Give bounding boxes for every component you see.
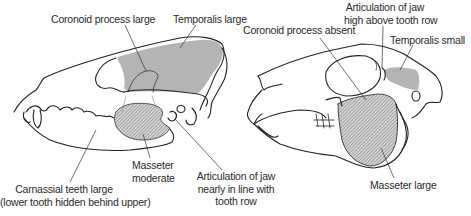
label-coronoid-process-large: Coronoid process large [51, 13, 155, 26]
herbivore-auditory-meatus [412, 91, 420, 101]
carnassial-line2: (lower tooth hidden behind upper) [0, 196, 128, 209]
label-masseter-large: Masseter large [370, 179, 437, 192]
masseter-moderate-line1: Masseter [132, 159, 168, 172]
temporalis-muscle-small [384, 67, 419, 90]
leader-temporalis-small [400, 45, 413, 70]
articulation-inline-line3: tooth row [186, 195, 286, 208]
carnivore-paroccipital [186, 108, 196, 125]
herbivore-upper-jaw [254, 110, 326, 124]
label-coronoid-process-absent: Coronoid process absent [243, 24, 355, 37]
leader-articulation-high [382, 26, 383, 68]
herbivore-skull [247, 44, 442, 168]
leader-carnassial [70, 130, 96, 182]
carnivore-skull [14, 37, 227, 151]
label-temporalis-small: Temporalis small [390, 34, 465, 47]
label-articulation-high: Articulation of jaw high above tooth row [344, 1, 426, 26]
herbivore-orbit [326, 56, 381, 96]
label-temporalis-large: Temporalis large [173, 13, 247, 26]
temporalis-muscle-large [118, 40, 223, 93]
herbivore-snout [258, 76, 282, 90]
label-masseter-moderate: Masseter moderate [132, 159, 168, 184]
articulation-inline-line2: nearly in line with [186, 183, 286, 196]
label-articulation-inline: Articulation of jaw nearly in line with … [186, 170, 286, 208]
articulation-inline-line1: Articulation of jaw [186, 170, 286, 183]
carnivore-auditory-bulla [177, 106, 185, 113]
masseter-muscle-large [338, 94, 398, 166]
articulation-high-line1: Articulation of jaw [344, 1, 426, 14]
carnivore-upper-teeth [26, 106, 114, 118]
leader-articulation-inline [175, 119, 222, 170]
carnassial-line1: Carnassial teeth large [0, 183, 128, 196]
articulation-high-line2: high above tooth row [344, 14, 426, 27]
carnivore-canine [33, 110, 41, 128]
masseter-moderate-line2: moderate [132, 172, 168, 185]
label-carnassial-teeth: Carnassial teeth large (lower tooth hidd… [0, 183, 128, 208]
herbivore-premaxilla [247, 90, 262, 124]
